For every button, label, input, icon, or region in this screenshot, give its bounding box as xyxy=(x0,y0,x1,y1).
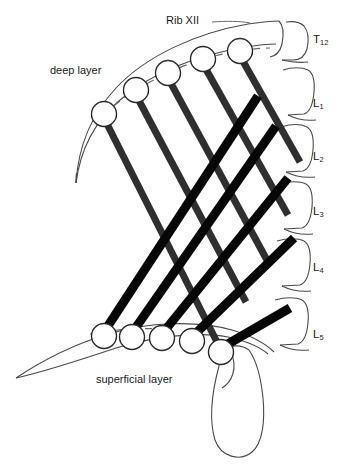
vertebra-number-l5: 5 xyxy=(319,333,323,342)
vertebra-label-l3: L3 xyxy=(313,206,324,218)
vertebra-label-l4: L4 xyxy=(313,262,324,274)
figure-canvas: Rib XII deep layer superficial layer T12… xyxy=(0,0,345,464)
vertebra-label-l1: L1 xyxy=(313,98,324,110)
superficial-attachment-circle-2 xyxy=(120,325,145,350)
superficial-attachment-circle-3 xyxy=(150,326,175,351)
vertebra-number-l2: 2 xyxy=(319,155,323,164)
deep-attachment-circle-5 xyxy=(228,39,253,64)
vertebra-label-t12: T12 xyxy=(313,34,328,46)
deep-attachment-circle-3 xyxy=(156,61,181,86)
superficial-attachment-circle-1 xyxy=(92,324,117,349)
vertebra-number-l3: 3 xyxy=(319,210,323,219)
superficial-layer-label: superficial layer xyxy=(96,374,172,385)
superficial-band-5 xyxy=(221,308,290,348)
superficial-attachment-circle-4 xyxy=(180,329,205,354)
superficial-band-2 xyxy=(132,126,276,333)
vertebra-label-l2: L2 xyxy=(313,151,324,163)
superficial-attachment-circle-5 xyxy=(209,340,234,365)
deep-attachment-circle-4 xyxy=(191,47,216,72)
deep-attachment-circle-1 xyxy=(92,102,117,127)
deep-attachment-circle-2 xyxy=(124,78,149,103)
superficial-band-4 xyxy=(192,238,294,337)
vertebra-letter-t12: T xyxy=(313,33,320,45)
deep-layer-label: deep layer xyxy=(50,65,101,76)
vertebra-label-l5: L5 xyxy=(313,329,324,341)
vertebra-number-t12: 12 xyxy=(320,38,328,47)
rib-label: Rib XII xyxy=(166,15,199,26)
rib-label-leader xyxy=(212,21,250,23)
vertebra-number-l4: 4 xyxy=(319,266,323,275)
vertebra-number-l1: 1 xyxy=(319,102,323,111)
